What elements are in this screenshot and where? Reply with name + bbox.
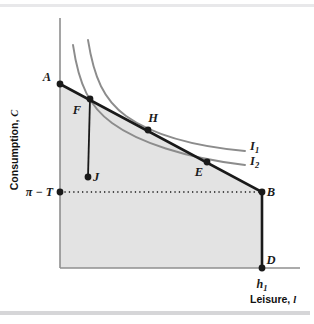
plot-point-pit: [57, 189, 64, 196]
curve-label-i1: I1: [249, 139, 259, 155]
plot-point-j: [85, 174, 92, 181]
curve-label-i2: I2: [249, 154, 260, 170]
plot-point-e: [204, 159, 211, 166]
point-label-d: D: [265, 253, 275, 267]
y-axis-title: Consumption, C: [8, 109, 20, 191]
point-label-b: B: [266, 185, 275, 199]
y-axis-title-variable: C: [9, 109, 20, 117]
x-axis-title-text: Leisure,: [250, 293, 290, 305]
point-label-a: A: [42, 70, 51, 84]
economics-diagram-figure: AFHEBDJ I1 I2 π − T h1 Consumption, C Le…: [0, 0, 314, 324]
x-tick-label-h1: h1: [257, 277, 268, 293]
plot-point-d: [259, 265, 266, 272]
point-label-f: F: [72, 103, 82, 117]
point-label-h: H: [147, 111, 159, 125]
x-axis-title: Leisure, l: [250, 293, 296, 305]
plot-point-b: [259, 189, 266, 196]
plot-point-f: [87, 96, 94, 103]
point-label-e: E: [194, 165, 203, 179]
top-divider-band: [0, 4, 314, 7]
y-tick-label-pi-minus-t: π − T: [26, 185, 54, 199]
point-label-j: J: [92, 170, 100, 184]
x-axis-title-variable: l: [293, 294, 296, 305]
diagram-canvas: AFHEBDJ I1 I2 π − T h1 Consumption, C Le…: [0, 0, 314, 324]
plot-point-a: [57, 81, 64, 88]
bottom-divider-band: [0, 311, 310, 315]
plot-point-h: [145, 127, 152, 134]
y-axis-title-text: Consumption,: [8, 120, 20, 191]
